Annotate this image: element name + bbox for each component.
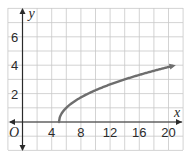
x-tick-label: 12 (103, 125, 117, 140)
y-tick-label: 4 (11, 58, 18, 73)
y-axis-label: y (26, 6, 35, 21)
curve (59, 64, 176, 122)
x-tick-label: 4 (48, 125, 55, 140)
x-axis-label: x (173, 105, 181, 120)
x-tick-label: 20 (161, 125, 175, 140)
graph: 48121620246Oxy (0, 0, 195, 158)
y-tick-label: 6 (11, 30, 18, 45)
grid-lines (8, 8, 183, 150)
y-axis-arrow-up-icon (20, 8, 26, 14)
y-tick-label: 2 (11, 87, 18, 102)
curve-arrow-icon (169, 64, 176, 70)
tick-labels: 48121620246Oxy (9, 6, 181, 140)
curve-path (59, 66, 172, 122)
x-tick-label: 8 (77, 125, 84, 140)
origin-label: O (9, 125, 19, 140)
x-tick-label: 16 (132, 125, 146, 140)
